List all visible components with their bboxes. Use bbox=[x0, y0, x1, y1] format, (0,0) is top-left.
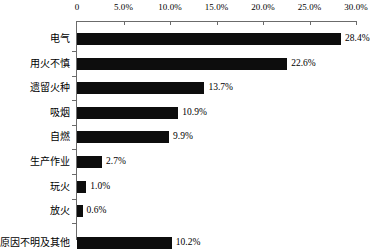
value-label: 9.9% bbox=[173, 130, 193, 143]
bar bbox=[77, 181, 86, 193]
bar bbox=[77, 131, 169, 143]
bar-row: 吸烟10.9% bbox=[0, 107, 380, 120]
value-label: 2.7% bbox=[106, 155, 126, 168]
y-tick-mark bbox=[72, 76, 76, 77]
x-tick-mark bbox=[124, 22, 125, 25]
value-label: 10.2% bbox=[176, 236, 201, 249]
bar bbox=[77, 58, 287, 70]
value-label: 1.0% bbox=[90, 180, 110, 193]
value-label: 10.9% bbox=[182, 106, 207, 119]
bar bbox=[77, 205, 83, 217]
x-tick-mark bbox=[263, 22, 264, 25]
category-label: 电气 bbox=[50, 32, 70, 45]
y-tick-mark bbox=[72, 174, 76, 175]
x-tick-label: 15.0% bbox=[205, 2, 229, 12]
bar bbox=[77, 33, 341, 45]
y-tick-mark bbox=[72, 100, 76, 101]
category-label: 放火 bbox=[50, 204, 70, 217]
bar-row: 遗留火种13.7% bbox=[0, 82, 380, 95]
bar-row: 原因不明及其他10.2% bbox=[0, 237, 380, 250]
category-label: 自燃 bbox=[50, 130, 70, 143]
y-tick-mark bbox=[72, 149, 76, 150]
y-tick-mark bbox=[72, 199, 76, 200]
value-label: 13.7% bbox=[208, 81, 233, 94]
bar bbox=[77, 107, 178, 119]
category-label: 用火不慎 bbox=[30, 57, 70, 70]
x-tick-label: 10.0% bbox=[158, 2, 182, 12]
bar-chart: 05.0%10.0%15.0%20.0%25.0%30.0% 电气28.4%用火… bbox=[0, 0, 380, 250]
category-label: 玩火 bbox=[50, 180, 70, 193]
y-tick-mark bbox=[72, 223, 76, 224]
y-tick-mark bbox=[72, 125, 76, 126]
category-label: 吸烟 bbox=[50, 106, 70, 119]
x-tick-mark bbox=[217, 22, 218, 25]
x-axis-end-cap bbox=[356, 21, 357, 25]
x-tick-mark bbox=[170, 22, 171, 25]
bar-row: 放火0.6% bbox=[0, 205, 380, 218]
category-label: 原因不明及其他 bbox=[0, 236, 70, 249]
value-label: 22.6% bbox=[291, 57, 316, 70]
x-tick-label: 25.0% bbox=[298, 2, 322, 12]
x-tick-label: 30.0% bbox=[344, 2, 368, 12]
x-tick-mark bbox=[310, 22, 311, 25]
bar bbox=[77, 237, 172, 249]
bar bbox=[77, 156, 102, 168]
bar-row: 玩火1.0% bbox=[0, 181, 380, 194]
x-tick-label: 5.0% bbox=[114, 2, 133, 12]
x-axis-tick-labels: 05.0%10.0%15.0%20.0%25.0%30.0% bbox=[0, 0, 380, 18]
y-tick-mark bbox=[72, 51, 76, 52]
bar-row: 用火不慎22.6% bbox=[0, 58, 380, 71]
bar-row: 生产作业2.7% bbox=[0, 156, 380, 169]
category-label: 生产作业 bbox=[30, 155, 70, 168]
x-tick-label: 20.0% bbox=[251, 2, 275, 12]
x-tick-label: 0 bbox=[75, 2, 80, 12]
bar bbox=[77, 82, 204, 94]
value-label: 0.6% bbox=[87, 204, 107, 217]
value-label: 28.4% bbox=[345, 32, 370, 45]
category-label: 遗留火种 bbox=[30, 81, 70, 94]
bar-row: 自燃9.9% bbox=[0, 131, 380, 144]
bar-row: 电气28.4% bbox=[0, 33, 380, 46]
